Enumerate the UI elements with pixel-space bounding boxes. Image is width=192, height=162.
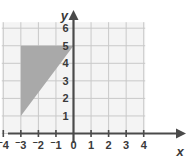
x-tick-label: –1 xyxy=(50,137,61,151)
y-tick-label: 3 xyxy=(62,75,68,87)
x-tick-label: 3 xyxy=(123,139,129,151)
x-tick-label: –3 xyxy=(15,137,26,151)
y-tick-label: 2 xyxy=(62,92,68,104)
y-tick-label: 5 xyxy=(62,40,68,52)
x-tick-label: 2 xyxy=(106,139,112,151)
y-tick-label: 4 xyxy=(62,57,69,69)
x-axis-label: x xyxy=(175,144,184,159)
y-tick-label: 6 xyxy=(62,22,68,34)
x-tick-label: –4 xyxy=(0,137,10,151)
y-axis-label: y xyxy=(60,8,69,23)
x-axis-arrow-icon xyxy=(176,129,186,139)
x-axis-tick-labels: –4–3–2–101234 xyxy=(0,137,148,151)
x-tick-label: 0 xyxy=(70,139,76,151)
y-tick-label: 1 xyxy=(62,110,68,122)
graph-canvas: –4–3–2–101234 123456 y x xyxy=(0,0,192,162)
coordinate-graph: –4–3–2–101234 123456 y x xyxy=(0,0,192,162)
y-axis-arrow-icon xyxy=(69,10,79,20)
x-tick-label: 1 xyxy=(88,139,94,151)
x-tick-label: –2 xyxy=(33,137,44,151)
x-tick-label: 4 xyxy=(141,139,148,151)
